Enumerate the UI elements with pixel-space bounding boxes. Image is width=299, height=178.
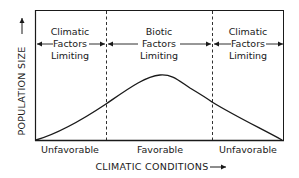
region-2-label-line1: Biotic: [146, 26, 173, 37]
region-1-label-line2: Factors: [53, 38, 87, 49]
x-axis-title: CLIMATIC CONDITIONS: [95, 161, 208, 172]
y-axis-title: POPULATION SIZE: [16, 46, 27, 135]
region-2-label-line3: Limiting: [140, 50, 178, 61]
region-3-label-line3: Limiting: [229, 50, 267, 61]
x-category-left: Unfavorable: [41, 144, 99, 155]
population-climate-diagram: Climatic Factors Limiting Biotic Factors…: [0, 0, 299, 178]
y-axis-title-group: POPULATION SIZE: [16, 46, 27, 135]
x-category-center: Favorable: [137, 144, 183, 155]
region-1-label-line3: Limiting: [51, 50, 89, 61]
x-category-right: Unfavorable: [219, 144, 277, 155]
population-curve: [36, 75, 282, 140]
region-1-label-line1: Climatic: [51, 26, 90, 37]
region-3-label-line2: Factors: [231, 38, 265, 49]
region-2-label-line2: Factors: [142, 38, 176, 49]
region-3-label-line1: Climatic: [229, 26, 268, 37]
